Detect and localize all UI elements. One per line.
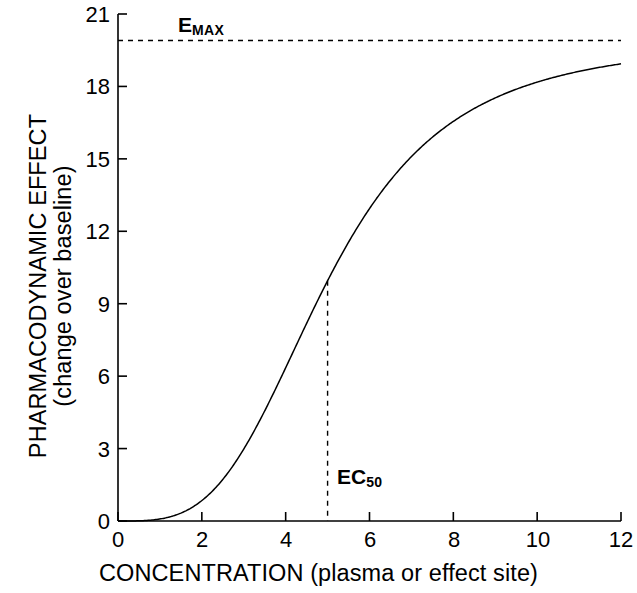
y-axis-tick-labels: 21 18 15 12 9 6 3 0 [62,0,110,593]
y-tick-label-18: 18 [66,76,110,98]
x-tick-label-6: 6 [350,529,390,551]
y-tick-label-6: 6 [66,366,110,388]
x-tick-label-2: 2 [182,529,222,551]
x-axis-ticks [118,512,621,521]
ec50-annotation-label: EC50 [337,466,382,487]
y-tick-label-3: 3 [66,439,110,461]
x-tick-label-8: 8 [434,529,474,551]
ec50-subscript: 50 [366,474,382,490]
x-tick-label-4: 4 [266,529,306,551]
x-tick-label-10: 10 [518,529,558,551]
emax-subscript: MAX [192,22,224,38]
effect-curve [118,64,621,521]
x-tick-label-0: 0 [98,529,138,551]
x-axis-title: CONCENTRATION (plasma or effect site) [0,560,637,587]
pharmacodynamic-effect-chart: PHARMACODYNAMIC EFFECT (change over base… [0,0,637,593]
emax-text: E [178,13,192,36]
y-tick-label-21: 21 [66,4,110,26]
y-axis-ticks [118,14,127,521]
emax-annotation-label: EMAX [178,14,224,35]
y-tick-label-15: 15 [66,149,110,171]
y-axis-title-line-1: PHARMACODYNAMIC EFFECT [26,114,51,458]
y-tick-label-12: 12 [66,221,110,243]
x-tick-label-12: 12 [601,529,637,551]
y-tick-label-9: 9 [66,294,110,316]
ec50-text: EC [337,465,366,488]
